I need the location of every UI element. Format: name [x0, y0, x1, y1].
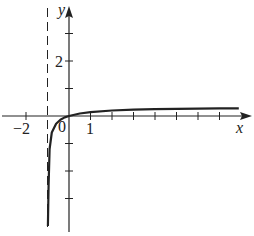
tick-label-1: 1 — [86, 121, 94, 137]
chart: y x −2 0 1 2 — [0, 0, 254, 236]
tick-label-y2: 2 — [55, 54, 63, 70]
x-axis-label: x — [236, 120, 243, 136]
plot-area — [0, 0, 254, 236]
y-axis-label: y — [58, 2, 65, 18]
function-curve — [48, 108, 239, 226]
tick-label-0: 0 — [58, 119, 66, 135]
tick-label-neg2: −2 — [13, 121, 30, 137]
